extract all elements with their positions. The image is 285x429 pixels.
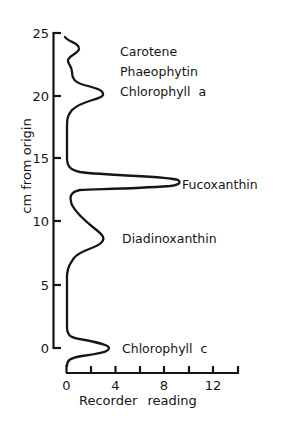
chromatogram-chart: 25 20 15 10 5 0 cm from origin 0 4 8 12 … <box>0 0 285 429</box>
x-tick-label-4: 4 <box>111 378 119 393</box>
y-tick-label-0: 0 <box>41 341 49 356</box>
x-tick-label-0: 0 <box>62 378 70 393</box>
y-tick-label-5: 5 <box>41 278 49 293</box>
y-tick-label-15: 15 <box>32 151 49 166</box>
y-tick-label-20: 20 <box>32 89 49 104</box>
y-tick-label-10: 10 <box>32 214 49 229</box>
label-fucoxanthin: Fucoxanthin <box>182 177 258 192</box>
label-chlorophyll-c: Chlorophyll c <box>122 341 207 356</box>
label-carotene: Carotene <box>120 44 177 59</box>
label-phaeophytin: Phaeophytin <box>120 64 198 79</box>
peak-labels: Carotene Phaeophytin Chlorophyll a Fucox… <box>120 44 258 356</box>
x-tick-labels: 0 4 8 12 <box>62 378 221 393</box>
y-tick-labels: 25 20 15 10 5 0 <box>32 26 49 356</box>
x-tick-label-12: 12 <box>205 378 222 393</box>
y-axis <box>54 32 62 349</box>
x-tick-label-8: 8 <box>160 378 168 393</box>
y-tick-label-25: 25 <box>32 26 49 41</box>
label-chlorophyll-a: Chlorophyll a <box>120 84 206 99</box>
x-axis-title: Recorder reading <box>79 393 197 408</box>
y-axis-title: cm from origin <box>19 118 34 213</box>
x-axis <box>66 365 239 373</box>
label-diadinoxanthin: Diadinoxanthin <box>122 231 217 246</box>
